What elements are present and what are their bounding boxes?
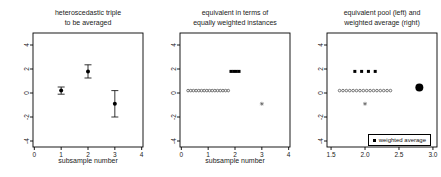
instance-point — [353, 70, 356, 73]
instance-point — [224, 89, 227, 92]
instance-point — [382, 89, 385, 92]
y-tick-label: 4 — [170, 43, 177, 47]
y-tick-label: 2 — [317, 67, 324, 71]
plot-box — [33, 33, 143, 147]
x-axis-label: subsample number — [33, 157, 143, 164]
y-tick-label: 0 — [317, 91, 324, 95]
instance-point — [369, 89, 372, 92]
panel-pool-and-weighted-average: equivalent pool (left) and weighted aver… — [294, 0, 441, 177]
series-errorbar-circle — [58, 65, 119, 117]
instance-point — [348, 89, 351, 92]
instance-point — [235, 70, 238, 73]
instance-point — [367, 70, 370, 73]
y-axis: -4-2024 — [170, 43, 181, 144]
instance-point — [229, 70, 232, 73]
y-tick-label: -2 — [317, 114, 324, 120]
instance-point — [195, 89, 198, 92]
x-tick-label: 2.5 — [394, 151, 403, 158]
instance-point — [206, 89, 209, 92]
instance-point — [197, 89, 200, 92]
y-tick-label: 2 — [170, 67, 177, 71]
instance-point — [222, 89, 225, 92]
instance-point — [338, 89, 341, 92]
series-filled-square — [353, 70, 376, 73]
x-tick-label: 1.5 — [327, 151, 336, 158]
instance-point — [365, 89, 368, 92]
y-axis: -4-2024 — [23, 43, 34, 144]
instance-point — [372, 89, 375, 92]
weighted-average-point — [415, 84, 423, 92]
series-open-circle — [338, 89, 392, 92]
three-panel-scatter-figure: heteroscedastic triple to be averaged 01… — [0, 0, 441, 177]
mean-point — [59, 89, 63, 93]
legend-label: weighted average — [379, 137, 426, 143]
instance-point — [379, 89, 382, 92]
instance-point — [219, 89, 222, 92]
instance-point — [352, 89, 355, 92]
instance-point — [374, 70, 377, 73]
y-tick-label: 0 — [23, 91, 30, 95]
instance-point — [214, 89, 217, 92]
instance-point — [200, 89, 203, 92]
panel-equally-weighted-instances: equivalent in terms of equally weighted … — [147, 0, 294, 177]
pool-scatter-plot: 1.52.02.53.0-4-2024 — [294, 0, 441, 177]
plot-box — [180, 33, 290, 147]
instance-point — [211, 89, 214, 92]
y-tick-label: -4 — [170, 138, 177, 144]
instance-point — [187, 89, 190, 92]
instance-point — [238, 70, 241, 73]
y-tick-label: 4 — [317, 43, 324, 47]
instance-point — [359, 89, 362, 92]
y-tick-label: -2 — [170, 114, 177, 120]
series-filled-square — [229, 70, 240, 73]
instance-point — [342, 89, 345, 92]
instance-point — [360, 70, 363, 73]
mean-point — [113, 102, 117, 106]
y-axis: -4-2024 — [317, 43, 328, 144]
series-filled-circle — [415, 84, 423, 92]
y-tick-label: -2 — [23, 114, 30, 120]
instance-point — [192, 89, 195, 92]
y-tick-label: -4 — [23, 138, 30, 144]
y-tick-label: 0 — [170, 91, 177, 95]
instance-point — [232, 70, 235, 73]
errorbar-scatter-plot: 01234-4-2024 — [0, 0, 147, 177]
filled-square-icon — [373, 139, 376, 142]
instances-scatter-plot: 01234-4-2024 — [147, 0, 294, 177]
instance-point — [208, 89, 211, 92]
y-tick-label: 4 — [23, 43, 30, 47]
legend-weighted-average: weighted average — [368, 134, 431, 146]
panel-heteroscedastic-triple: heteroscedastic triple to be averaged 01… — [0, 0, 147, 177]
x-tick-label: 3.0 — [428, 151, 437, 158]
instance-point — [189, 89, 192, 92]
y-tick-label: 2 — [23, 67, 30, 71]
instance-point — [203, 89, 206, 92]
instance-point — [345, 89, 348, 92]
instance-point — [355, 89, 358, 92]
mean-point — [86, 69, 90, 73]
instance-point — [389, 89, 392, 92]
series-asterisk — [260, 102, 264, 106]
y-tick-label: -4 — [317, 138, 324, 144]
instance-point — [362, 89, 365, 92]
x-axis: 1.52.02.53.0 — [327, 147, 438, 158]
series-asterisk — [363, 102, 367, 106]
instance-point — [376, 89, 379, 92]
x-tick-label: 2.0 — [361, 151, 370, 158]
series-open-circle — [187, 89, 230, 92]
x-axis-label: subsample number — [180, 157, 290, 164]
instance-point — [216, 89, 219, 92]
instance-point — [227, 89, 230, 92]
instance-point — [386, 89, 389, 92]
